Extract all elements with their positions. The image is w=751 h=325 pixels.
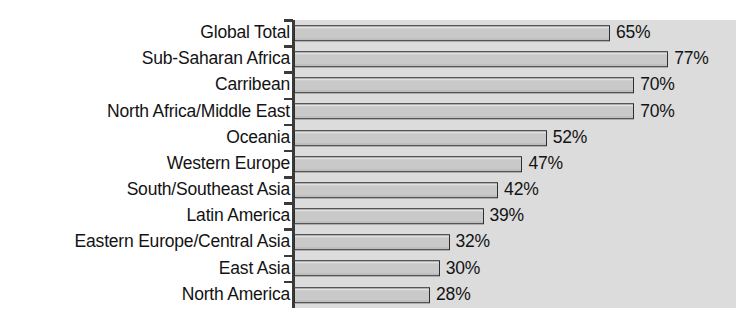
bar-group: 30% bbox=[294, 260, 480, 278]
bar-row: Sub-Saharan Africa77% bbox=[0, 46, 751, 72]
bar-value-label: 32% bbox=[456, 234, 490, 252]
category-label: North Africa/Middle East bbox=[107, 103, 290, 121]
bar-row: Latin America39% bbox=[0, 203, 751, 229]
bar-row: Eastern Europe/Central Asia32% bbox=[0, 229, 751, 255]
bar-value-label: 65% bbox=[616, 24, 650, 42]
bar-value-label: 52% bbox=[553, 129, 587, 147]
bar-row: Global Total65% bbox=[0, 20, 751, 46]
bar-value-label: 39% bbox=[490, 208, 524, 226]
bar bbox=[294, 156, 522, 172]
category-label: Western Europe bbox=[167, 155, 290, 173]
category-label: South/Southeast Asia bbox=[127, 181, 290, 199]
axis-tick bbox=[284, 176, 293, 179]
bar-group: 47% bbox=[294, 155, 563, 173]
axis-tick bbox=[284, 255, 293, 258]
bar bbox=[294, 130, 547, 146]
axis-tick bbox=[284, 124, 293, 127]
bar-group: 70% bbox=[294, 103, 675, 121]
axis-tick bbox=[284, 19, 293, 22]
bar bbox=[294, 208, 484, 224]
bar-group: 65% bbox=[294, 24, 650, 42]
bar-row: Western Europe47% bbox=[0, 151, 751, 177]
category-label: Oceania bbox=[226, 129, 290, 147]
bar-row: North America28% bbox=[0, 282, 751, 308]
category-label: North America bbox=[182, 286, 290, 304]
bar-group: 42% bbox=[294, 181, 539, 199]
category-label: Carribean bbox=[215, 77, 290, 95]
bar-group: 28% bbox=[294, 286, 471, 304]
axis-tick bbox=[284, 71, 293, 74]
category-label: Global Total bbox=[200, 24, 290, 42]
bar-row: Oceania52% bbox=[0, 125, 751, 151]
axis-tick bbox=[284, 150, 293, 153]
bar-chart: Global Total65%Sub-Saharan Africa77%Carr… bbox=[0, 0, 751, 325]
axis-tick bbox=[284, 202, 293, 205]
bar-row: North Africa/Middle East70% bbox=[0, 99, 751, 125]
bar-value-label: 77% bbox=[674, 51, 708, 69]
bar-value-label: 28% bbox=[436, 286, 470, 304]
bar-value-label: 47% bbox=[528, 155, 562, 173]
bar bbox=[294, 287, 430, 303]
bar bbox=[294, 25, 610, 41]
category-label: Sub-Saharan Africa bbox=[142, 51, 290, 69]
axis-tick bbox=[284, 281, 293, 284]
category-label: Eastern Europe/Central Asia bbox=[75, 234, 290, 252]
bar-value-label: 70% bbox=[640, 77, 674, 95]
axis-tick bbox=[284, 228, 293, 231]
bar-value-label: 42% bbox=[504, 181, 538, 199]
category-label: Latin America bbox=[187, 208, 290, 226]
bar-value-label: 70% bbox=[640, 103, 674, 121]
bar bbox=[294, 261, 440, 277]
category-label: East Asia bbox=[219, 260, 290, 278]
axis-tick bbox=[284, 98, 293, 101]
bar-row: East Asia30% bbox=[0, 256, 751, 282]
bar-rows-container: Global Total65%Sub-Saharan Africa77%Carr… bbox=[0, 20, 751, 308]
bar bbox=[294, 182, 498, 198]
bar-row: South/Southeast Asia42% bbox=[0, 177, 751, 203]
bar-group: 32% bbox=[294, 234, 490, 252]
axis-tick bbox=[284, 45, 293, 48]
bar bbox=[294, 234, 450, 250]
bar bbox=[294, 104, 634, 120]
bar-group: 70% bbox=[294, 77, 675, 95]
bar-value-label: 30% bbox=[446, 260, 480, 278]
bar-group: 52% bbox=[294, 129, 587, 147]
bar-group: 77% bbox=[294, 51, 709, 69]
bar bbox=[294, 77, 634, 93]
bar-group: 39% bbox=[294, 208, 524, 226]
bar-row: Carribean70% bbox=[0, 72, 751, 98]
bar bbox=[294, 51, 668, 67]
